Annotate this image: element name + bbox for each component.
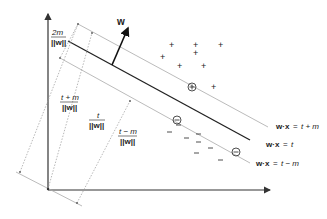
tick-dot [91,32,93,34]
negative-support-vector [232,148,240,156]
plus-point: + [160,52,165,62]
svg-text:||w||: ||w|| [62,103,77,112]
plus-point: + [193,48,198,58]
svg-text:2m: 2m [51,28,63,37]
svg-text:t: t [291,140,294,149]
margin-width-label: 2m ||w|| [51,28,66,47]
decision-hyperplane-label: w·x = t [265,140,294,149]
tick-dot [47,188,49,190]
w-vector-label: w [116,16,125,27]
svg-text:t − m: t − m [119,127,137,136]
svg-text:||w||: ||w|| [120,137,135,146]
plus-point: + [201,61,206,71]
tick-dot [19,171,21,173]
svg-text:=: = [283,140,288,149]
lower-hyperplane-label: w·x = t − m [255,159,299,168]
negative-points [167,125,223,160]
dotted-lower-distance [77,101,130,203]
svg-text:t + m: t + m [61,93,79,102]
svg-text:=: = [293,122,298,131]
w-vector-arrow [112,28,128,65]
plus-point: + [169,40,174,50]
plus-point: + [211,82,216,92]
svg-text:t: t [97,111,100,120]
upper-hyperplane-label: w·x = t + m [275,122,319,131]
positive-points: + + + + + + + + [160,40,223,92]
tick-dot [77,23,79,25]
svg-text:w·x: w·x [255,159,270,168]
tick-dot [129,100,131,102]
tick-dot [76,202,78,204]
lower-margin-line [60,58,250,163]
lower-distance-label: t − m ||w|| [118,127,137,146]
plus-point: + [218,40,223,50]
svg-text:||w||: ||w|| [89,121,104,130]
svg-text:||w||: ||w|| [51,38,66,47]
svg-text:t − m: t − m [281,159,299,168]
upper-distance-label: t + m ||w|| [60,93,79,112]
plus-point: + [177,61,182,71]
decision-distance-label: t ||w|| [89,111,105,130]
svg-text:w·x: w·x [265,140,280,149]
tick-dot [59,57,61,59]
svg-text:=: = [273,159,278,168]
svm-margin-diagram: w 2m ||w|| t + m ||w|| t ||w|| t − m ||w… [0,0,327,219]
svg-text:w·x: w·x [275,122,290,131]
svg-text:t + m: t + m [301,122,319,131]
